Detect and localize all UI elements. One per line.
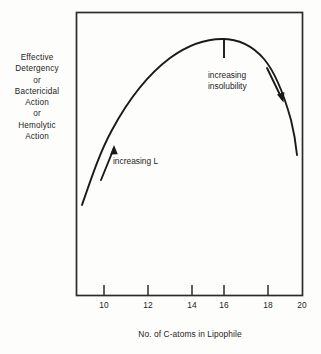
x-tick-label: 18 bbox=[256, 300, 280, 310]
increasing-insolubility-annotation-line: insolubility bbox=[208, 81, 247, 92]
x-tick-label: 16 bbox=[212, 300, 236, 310]
chart-figure: Effective Detergency or Bactericidal Act… bbox=[0, 0, 321, 354]
y-axis-title-line: Action bbox=[2, 97, 72, 108]
y-axis-title-line: or bbox=[2, 75, 72, 86]
increasing-l-annotation: increasing L bbox=[113, 156, 158, 167]
x-tick-label: 10 bbox=[92, 300, 116, 310]
y-axis-title-line: or bbox=[2, 108, 72, 119]
increasing-insolubility-annotation-line: increasing bbox=[208, 70, 247, 81]
increasing-insolubility-arrow-icon bbox=[267, 68, 284, 103]
y-axis-title-line: Hemolytic bbox=[2, 120, 72, 131]
y-axis-title-line: Effective bbox=[2, 52, 72, 63]
x-tick-label: 12 bbox=[136, 300, 160, 310]
x-axis-title: No. of C-atoms in Lipophile bbox=[76, 329, 304, 339]
data-curve bbox=[82, 39, 297, 205]
y-axis-title-line: Detergency bbox=[2, 63, 72, 74]
y-axis-title: Effective Detergency or Bactericidal Act… bbox=[2, 52, 72, 142]
x-axis-ticks bbox=[104, 285, 268, 295]
x-tick-label: 14 bbox=[180, 300, 204, 310]
x-tick-label: 20 bbox=[290, 300, 314, 310]
increasing-insolubility-annotation: increasing insolubility bbox=[208, 70, 247, 91]
increasing-l-annotation-line: increasing L bbox=[113, 156, 158, 167]
y-axis-title-line: Bactericidal bbox=[2, 86, 72, 97]
plot-frame bbox=[77, 13, 303, 296]
y-axis-title-line: Action bbox=[2, 131, 72, 142]
